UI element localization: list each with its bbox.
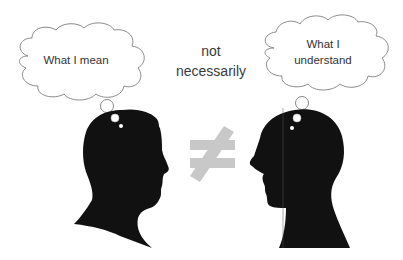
not-equal-icon [190,126,235,182]
middle-caption: not necessarily [176,43,246,79]
left-head-silhouette [74,109,169,248]
left-thought-text: What I mean [43,54,108,66]
thought-bubble-large-right [296,97,309,110]
thought-bubble-large-left [101,100,114,113]
right-thought-cloud: What I understand [265,15,388,110]
right-thought-text-line-2: understand [294,54,352,66]
caption-line-1: not [201,43,221,59]
right-thought-text-line-1: What I [306,38,339,50]
right-head-silhouette [250,108,350,248]
thought-bubble-small-right [290,126,294,130]
cloud-shape-right [265,15,388,90]
thought-bubble-medium-right [293,114,301,122]
listener-head-icon [250,109,350,248]
thought-bubble-small-left [119,124,123,128]
speaker-head-icon [74,109,169,248]
communication-diagram: What I mean not necessarily What I under… [0,0,403,260]
thought-bubble-medium-left [111,114,119,122]
caption-line-2: necessarily [176,63,246,79]
left-thought-cloud: What I mean [19,23,144,113]
